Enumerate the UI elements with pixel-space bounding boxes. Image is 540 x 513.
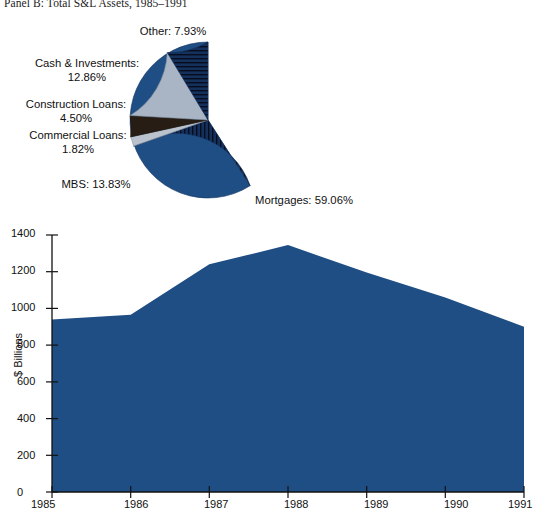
area-series-total-sl-assets [52, 245, 524, 492]
pie-label-cash-investments-line2: 12.86% [12, 71, 162, 85]
pie-label-construction-loans-line2: 4.50% [0, 112, 152, 126]
y-tick-label-0: 0 [17, 486, 23, 498]
y-tick-label-800: 800 [17, 338, 35, 350]
y-tick-label-1400: 1400 [11, 227, 35, 239]
x-tick-label-1990: 1990 [444, 498, 468, 510]
x-tick-label-1991: 1991 [508, 498, 532, 510]
y-tick-label-1000: 1000 [11, 301, 35, 313]
pie-label-mortgages: Mortgages: 59.06% [255, 194, 395, 208]
pie-label-mbs: MBS: 13.83% [40, 178, 152, 192]
x-tick-label-1989: 1989 [364, 498, 388, 510]
area-chart-region: $ Billions 0 200 400 600 800 1000 1200 1… [0, 215, 540, 513]
pie-label-commercial-loans-line1: Commercial Loans: [4, 129, 152, 143]
area-chart-svg [0, 215, 540, 513]
y-tick-label-600: 600 [17, 375, 35, 387]
pie-chart-region: Other: 7.93% Cash & Investments: 12.86% … [0, 10, 540, 215]
pie-label-cash-investments: Cash & Investments: 12.86% [12, 57, 162, 84]
x-tick-label-1987: 1987 [204, 498, 228, 510]
pie-label-commercial-loans-line2: 1.82% [4, 143, 152, 157]
x-tick-label-1986: 1986 [124, 498, 148, 510]
pie-label-construction-loans-line1: Construction Loans: [0, 98, 152, 112]
pie-label-construction-loans: Construction Loans: 4.50% [0, 98, 152, 125]
figure-panel-b: Panel B: Total S&L Assets, 1985–1991 [0, 0, 540, 513]
pie-label-cash-investments-line1: Cash & Investments: [12, 57, 162, 71]
panel-title: Panel B: Total S&L Assets, 1985–1991 [4, 0, 188, 9]
pie-label-other: Other: 7.93% [108, 25, 238, 39]
y-tick-label-1200: 1200 [11, 264, 35, 276]
x-tick-label-1988: 1988 [284, 498, 308, 510]
pie-label-commercial-loans: Commercial Loans: 1.82% [4, 129, 152, 156]
y-tick-label-200: 200 [17, 449, 35, 461]
y-tick-label-400: 400 [17, 412, 35, 424]
x-tick-label-1985: 1985 [31, 498, 55, 510]
